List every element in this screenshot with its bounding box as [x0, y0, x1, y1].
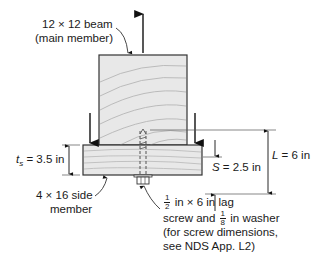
- side-member-label-line1: 4 × 16 side: [36, 188, 93, 202]
- screw-label-line3: (for screw dimensions,: [163, 225, 278, 239]
- fraction-half: 12: [164, 194, 170, 211]
- main-member-beam: [99, 55, 187, 145]
- side-member-label-line2: member: [50, 202, 92, 216]
- S-label: S = 2.5 in: [212, 160, 261, 174]
- ts-dimension: [62, 145, 80, 175]
- side-member-plank: [83, 145, 202, 175]
- side-member-leader: [95, 178, 107, 196]
- main-member-label-line1: 12 × 12 beam: [42, 17, 113, 31]
- ts-label: ts = 3.5 in: [16, 152, 64, 171]
- screw-label-line4: see NDS App. L2): [163, 239, 255, 253]
- screw-head: [137, 177, 149, 184]
- main-member-leader: [116, 28, 128, 53]
- screw-leader: [144, 186, 160, 209]
- L-label: L = 6 in: [272, 148, 310, 162]
- main-member-label-line2: (main member): [35, 31, 113, 45]
